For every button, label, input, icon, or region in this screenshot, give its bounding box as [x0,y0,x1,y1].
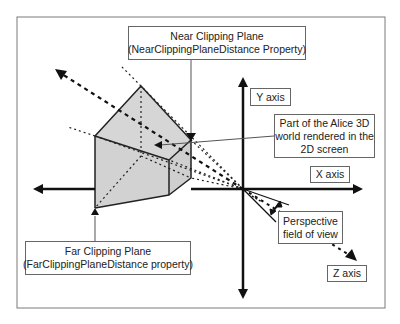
rendered-part-line3: 2D screen [301,143,349,156]
fov-line1: Perspective [283,215,338,228]
near-plane-line2: (NearClippingPlaneDistance Property) [128,43,306,56]
frustum-diagram: Near Clipping Plane (NearClippingPlaneDi… [0,0,400,324]
far-plane-arrow-icon [91,208,99,215]
z-axis-label: Z axis [327,265,367,282]
near-plane-line1: Near Clipping Plane [170,30,263,43]
x-axis [33,184,363,194]
rendered-part-line2: world rendered in the [275,130,374,143]
rendered-part-line1: Part of the Alice 3D [280,117,370,130]
z-axis-back-arrow-icon [55,69,67,80]
far-clipping-plane-label: Far Clipping Plane (FarClippingPlaneDist… [25,241,191,275]
z-axis-label-text: Z axis [333,267,361,280]
y-axis-label: Y axis [250,88,291,106]
y-axis-up-arrow-icon [238,77,248,87]
x-axis-right-arrow-icon [353,184,363,194]
fov-line2: field of view [283,228,338,241]
z-axis-front-arrow-icon [345,249,357,261]
rendered-part-label: Part of the Alice 3D world rendered in t… [274,114,375,158]
y-axis-down-arrow-icon [238,289,248,299]
near-clipping-plane-label: Near Clipping Plane (NearClippingPlaneDi… [128,26,306,60]
y-axis-label-text: Y axis [256,91,284,104]
perspective-fov-label: Perspective field of view [278,211,343,244]
x-axis-label-text: X axis [316,168,345,181]
x-axis-left-arrow-icon [33,184,43,194]
x-axis-label: X axis [310,166,350,183]
far-plane-line1: Far Clipping Plane [65,245,151,258]
far-plane-line2: (FarClippingPlaneDistance property) [23,258,193,271]
